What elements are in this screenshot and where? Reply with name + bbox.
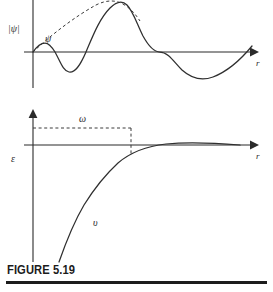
psi-wave-curve: [33, 2, 252, 79]
caption-rule: [6, 281, 267, 284]
lower-x-axis-label: r: [256, 151, 260, 161]
lower-x-axis-arrow-icon: [250, 141, 259, 150]
figure-drawing: |ψ| ψ r ε ω υ r: [0, 0, 273, 292]
upsilon-label: υ: [93, 217, 98, 228]
figure-container: |ψ| ψ r ε ω υ r FIGURE 5.19: [0, 0, 273, 292]
omega-label: ω: [79, 113, 86, 124]
lower-y-axis-arrow-icon: [29, 109, 38, 118]
upsilon-curve: [59, 143, 240, 262]
potential-plot: ε ω υ r: [11, 109, 260, 262]
upper-y-axis-label: |ψ|: [8, 23, 20, 34]
psi-curve-label: ψ: [45, 33, 52, 44]
figure-caption: FIGURE 5.19: [7, 262, 75, 277]
upper-x-axis-label: r: [256, 58, 260, 68]
upper-x-axis-arrow-icon: [250, 48, 259, 57]
lower-y-axis-label: ε: [11, 153, 15, 164]
wavefunction-plot: |ψ| ψ r: [8, 0, 260, 88]
